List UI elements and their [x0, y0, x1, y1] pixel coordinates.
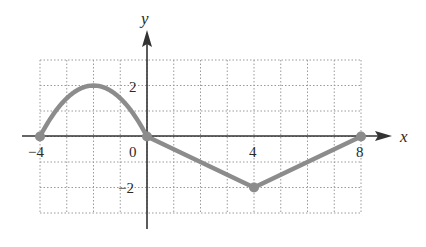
key-point	[249, 183, 259, 193]
x-tick-label: 0	[129, 144, 137, 160]
key-point	[142, 132, 152, 142]
y-tick-label: −2	[118, 180, 134, 196]
x-axis-label: x	[399, 127, 408, 146]
x-tick-label: 8	[356, 144, 364, 160]
y-axis-label: y	[139, 9, 149, 28]
key-point	[35, 132, 45, 142]
key-point	[356, 132, 366, 142]
tick-labels: −4 0 4 8 2 −2	[28, 79, 364, 196]
x-tick-label: 4	[249, 144, 257, 160]
y-tick-label: 2	[129, 79, 137, 95]
function-graph: x y −4 0 4 8 2 −2	[0, 0, 426, 247]
axes: x y	[22, 9, 408, 229]
x-tick-label: −4	[28, 144, 44, 160]
